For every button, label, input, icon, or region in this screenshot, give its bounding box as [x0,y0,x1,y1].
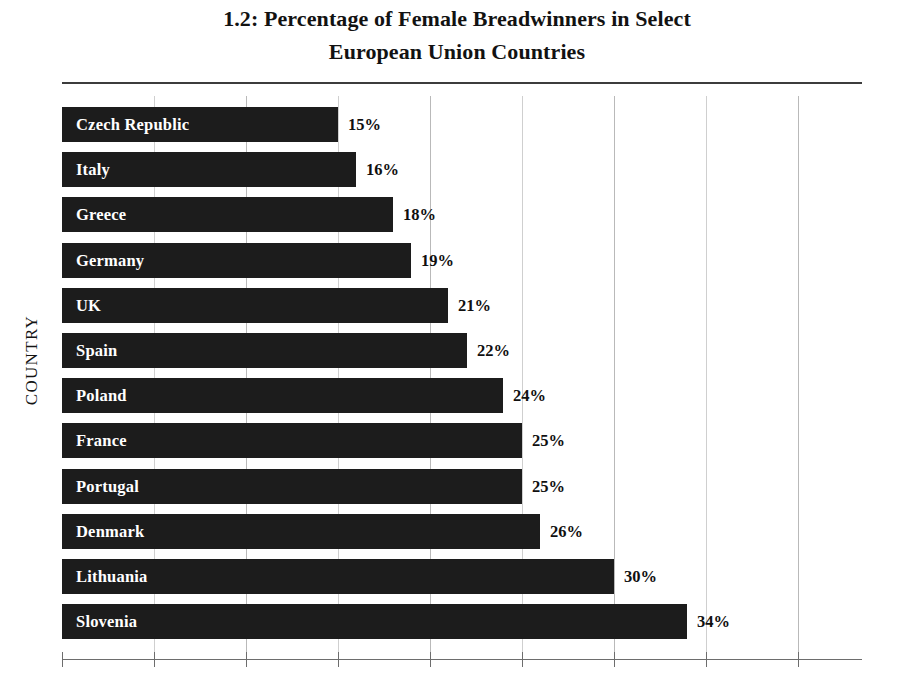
bar-category-label: Spain [76,333,117,368]
bar-value-label: 25% [532,423,565,458]
bar-category-label: Greece [76,197,126,232]
bar-row: Lithuania30% [62,559,862,594]
bar-row: Germany19% [62,243,862,278]
bar-category-label: UK [76,288,101,323]
bar[interactable] [62,423,522,458]
x-axis-tick-35 [706,652,707,667]
x-axis-tick-20 [430,652,431,667]
bar-value-label: 26% [550,514,583,549]
x-axis-tick-10 [246,652,247,667]
chart-title: 1.2: Percentage of Female Breadwinners i… [0,2,914,68]
title-divider-rule [62,82,862,84]
bar-row: Denmark26% [62,514,862,549]
bars-layer: Czech Republic15%Italy16%Greece18%German… [62,96,862,659]
plot-area: Czech Republic15%Italy16%Greece18%German… [62,96,862,659]
x-axis-tick-15 [338,652,339,667]
x-axis-tick-25 [522,652,523,667]
bar-row: France25% [62,423,862,458]
bar-row: Greece18% [62,197,862,232]
bar-category-label: Denmark [76,514,144,549]
x-axis-tick-0 [62,652,63,667]
bar-category-label: Italy [76,152,110,187]
bar-row: Italy16% [62,152,862,187]
bar-row: Czech Republic15% [62,107,862,142]
bar-value-label: 16% [366,152,399,187]
bar-row: Poland24% [62,378,862,413]
bar-category-label: Portugal [76,469,139,504]
bar[interactable] [62,378,503,413]
bar-category-label: Slovenia [76,604,137,639]
bar-value-label: 24% [513,378,546,413]
bar-category-label: Lithuania [76,559,148,594]
bar-row: Spain22% [62,333,862,368]
x-axis-tick-40 [798,652,799,667]
bar-value-label: 19% [421,243,454,278]
bar-row: Portugal25% [62,469,862,504]
y-axis-title: COUNTRY [22,265,42,455]
bar-row: UK21% [62,288,862,323]
bar-value-label: 34% [697,604,730,639]
x-axis-tick-30 [614,652,615,667]
x-axis-line [62,659,862,660]
bar-category-label: Czech Republic [76,107,189,142]
bar-category-label: Germany [76,243,144,278]
chart-title-line-1: 1.2: Percentage of Female Breadwinners i… [0,2,914,35]
bar-category-label: France [76,423,127,458]
bar-value-label: 25% [532,469,565,504]
chart-title-line-2: European Union Countries [0,35,914,68]
bar-value-label: 15% [348,107,381,142]
bar[interactable] [62,288,448,323]
bar-category-label: Poland [76,378,127,413]
bar-value-label: 30% [624,559,657,594]
bar[interactable] [62,333,467,368]
bar-value-label: 22% [477,333,510,368]
bar-value-label: 18% [403,197,436,232]
x-axis-tick-5 [154,652,155,667]
bar-row: Slovenia34% [62,604,862,639]
bar[interactable] [62,604,687,639]
bar-value-label: 21% [458,288,491,323]
